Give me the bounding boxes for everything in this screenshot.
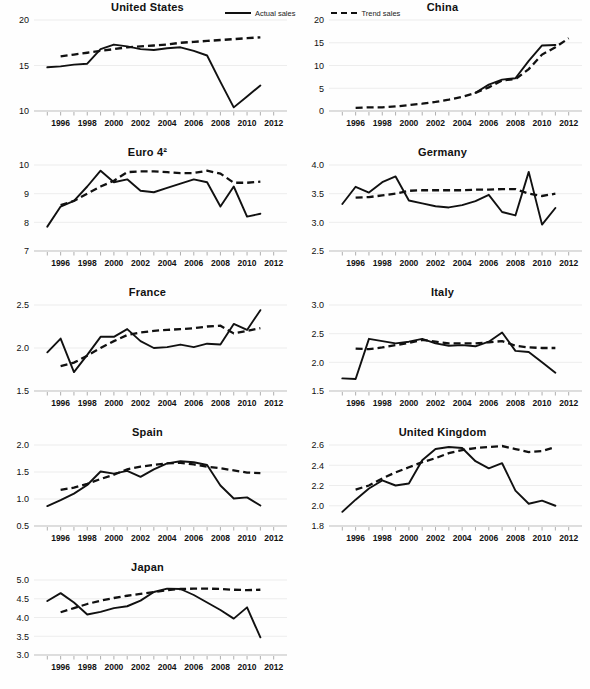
svg-text:2000: 2000 bbox=[399, 533, 418, 543]
svg-text:3.0: 3.0 bbox=[16, 650, 29, 660]
svg-text:1996: 1996 bbox=[51, 533, 70, 543]
svg-text:2.0: 2.0 bbox=[16, 440, 29, 450]
legend-entry-trend: Trend sales bbox=[331, 9, 400, 18]
svg-text:2012: 2012 bbox=[559, 533, 578, 543]
svg-text:2006: 2006 bbox=[184, 398, 203, 408]
chart-legend: Actual sales Trend sales bbox=[225, 5, 395, 21]
chart-panel-united-kingdom: United Kingdom 1.82.02.22.42.61996199820… bbox=[295, 425, 590, 560]
svg-text:1996: 1996 bbox=[51, 118, 70, 128]
svg-text:2002: 2002 bbox=[131, 398, 150, 408]
svg-text:2.5: 2.5 bbox=[311, 246, 324, 256]
svg-text:2008: 2008 bbox=[506, 398, 525, 408]
svg-text:2002: 2002 bbox=[426, 398, 445, 408]
small-multiples-chart-grid: United States 10152019961998200020022004… bbox=[0, 0, 590, 689]
svg-text:1998: 1998 bbox=[78, 662, 97, 672]
svg-text:2012: 2012 bbox=[264, 398, 283, 408]
svg-text:1996: 1996 bbox=[346, 118, 365, 128]
svg-text:3.5: 3.5 bbox=[311, 189, 324, 199]
svg-text:1.5: 1.5 bbox=[16, 467, 29, 477]
svg-text:2008: 2008 bbox=[211, 662, 230, 672]
legend-label-actual: Actual sales bbox=[255, 9, 295, 18]
svg-text:2000: 2000 bbox=[104, 398, 123, 408]
svg-text:2004: 2004 bbox=[158, 118, 177, 128]
svg-text:2002: 2002 bbox=[426, 118, 445, 128]
svg-text:15: 15 bbox=[19, 61, 29, 71]
chart-svg: 0510152019961998200020022004200620082010… bbox=[295, 0, 590, 145]
svg-text:2004: 2004 bbox=[158, 662, 177, 672]
svg-text:2004: 2004 bbox=[453, 533, 472, 543]
svg-text:2010: 2010 bbox=[238, 258, 257, 268]
svg-text:2004: 2004 bbox=[453, 258, 472, 268]
svg-text:2010: 2010 bbox=[238, 533, 257, 543]
svg-text:15: 15 bbox=[314, 38, 324, 48]
svg-text:2010: 2010 bbox=[533, 258, 552, 268]
svg-text:2006: 2006 bbox=[184, 533, 203, 543]
svg-text:0: 0 bbox=[319, 106, 324, 116]
svg-text:1998: 1998 bbox=[78, 258, 97, 268]
svg-text:2010: 2010 bbox=[238, 118, 257, 128]
chart-svg: 0.51.01.52.01996199820002002200420062008… bbox=[0, 425, 295, 560]
svg-text:2008: 2008 bbox=[211, 533, 230, 543]
svg-text:2008: 2008 bbox=[211, 398, 230, 408]
svg-text:5: 5 bbox=[319, 84, 324, 94]
svg-text:2008: 2008 bbox=[211, 258, 230, 268]
svg-text:4.5: 4.5 bbox=[16, 594, 29, 604]
svg-text:2010: 2010 bbox=[238, 662, 257, 672]
chart-panel-empty bbox=[295, 560, 590, 689]
legend-swatch-trend-dashed-line bbox=[331, 12, 357, 14]
svg-text:2008: 2008 bbox=[506, 118, 525, 128]
svg-text:2000: 2000 bbox=[399, 398, 418, 408]
svg-text:3.0: 3.0 bbox=[311, 218, 324, 228]
chart-svg: 3.03.54.04.55.01996199820002002200420062… bbox=[0, 560, 295, 689]
svg-text:1996: 1996 bbox=[346, 533, 365, 543]
svg-text:2.5: 2.5 bbox=[16, 300, 29, 310]
svg-text:2002: 2002 bbox=[426, 533, 445, 543]
svg-text:2004: 2004 bbox=[453, 118, 472, 128]
svg-text:9: 9 bbox=[24, 189, 29, 199]
svg-text:10: 10 bbox=[19, 106, 29, 116]
svg-text:2000: 2000 bbox=[104, 118, 123, 128]
svg-text:8: 8 bbox=[24, 218, 29, 228]
svg-text:2002: 2002 bbox=[131, 118, 150, 128]
svg-text:2010: 2010 bbox=[533, 118, 552, 128]
svg-text:10: 10 bbox=[19, 160, 29, 170]
svg-text:1998: 1998 bbox=[373, 533, 392, 543]
svg-text:1.5: 1.5 bbox=[16, 386, 29, 396]
chart-panel-japan: Japan 3.03.54.04.55.01996199820002002200… bbox=[0, 560, 295, 689]
svg-text:4.0: 4.0 bbox=[311, 160, 324, 170]
chart-panel-united-states: United States 10152019961998200020022004… bbox=[0, 0, 295, 145]
svg-text:2012: 2012 bbox=[264, 662, 283, 672]
svg-text:2008: 2008 bbox=[506, 258, 525, 268]
chart-panel-spain: Spain 0.51.01.52.01996199820002002200420… bbox=[0, 425, 295, 560]
svg-text:2.4: 2.4 bbox=[311, 461, 324, 471]
svg-text:2002: 2002 bbox=[131, 258, 150, 268]
svg-text:1996: 1996 bbox=[346, 258, 365, 268]
chart-svg: 1.52.02.51996199820002002200420062008201… bbox=[0, 285, 295, 425]
svg-text:2012: 2012 bbox=[559, 258, 578, 268]
svg-text:0.5: 0.5 bbox=[16, 521, 29, 531]
legend-entry-actual: Actual sales bbox=[225, 9, 295, 18]
svg-text:2000: 2000 bbox=[399, 258, 418, 268]
svg-text:1996: 1996 bbox=[51, 258, 70, 268]
chart-svg: 1015201996199820002002200420062008201020… bbox=[0, 0, 295, 145]
svg-text:7: 7 bbox=[24, 246, 29, 256]
chart-panel-germany: Germany 2.53.03.54.019961998200020022004… bbox=[295, 145, 590, 285]
svg-text:2004: 2004 bbox=[453, 398, 472, 408]
chart-panel-italy: Italy 1.52.02.53.01996199820002002200420… bbox=[295, 285, 590, 425]
svg-text:2004: 2004 bbox=[158, 258, 177, 268]
svg-text:2010: 2010 bbox=[238, 398, 257, 408]
chart-panel-china: China 0510152019961998200020022004200620… bbox=[295, 0, 590, 145]
svg-text:2002: 2002 bbox=[426, 258, 445, 268]
svg-text:3.5: 3.5 bbox=[16, 632, 29, 642]
svg-text:2008: 2008 bbox=[506, 533, 525, 543]
svg-text:2.6: 2.6 bbox=[311, 440, 324, 450]
svg-text:2010: 2010 bbox=[533, 398, 552, 408]
svg-text:1998: 1998 bbox=[373, 118, 392, 128]
svg-text:1998: 1998 bbox=[373, 398, 392, 408]
svg-text:1998: 1998 bbox=[78, 118, 97, 128]
chart-svg: 1.82.02.22.42.61996199820002002200420062… bbox=[295, 425, 590, 560]
svg-text:2000: 2000 bbox=[104, 258, 123, 268]
chart-svg: 2.53.03.54.01996199820002002200420062008… bbox=[295, 145, 590, 285]
svg-text:2012: 2012 bbox=[264, 258, 283, 268]
svg-text:1998: 1998 bbox=[78, 533, 97, 543]
